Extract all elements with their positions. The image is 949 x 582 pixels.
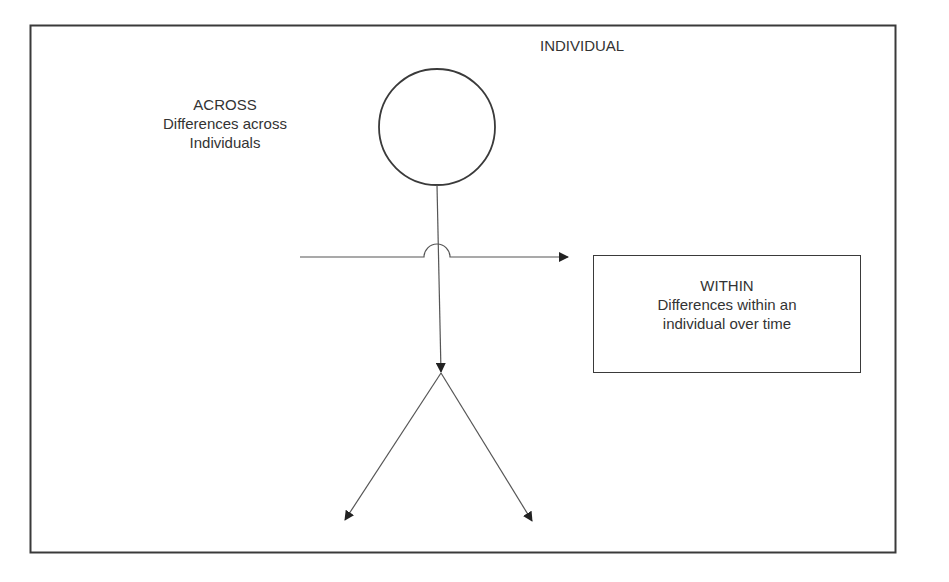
across-heading: ACROSS <box>140 95 310 114</box>
across-line-2: Individuals <box>140 133 310 152</box>
diagram-canvas: INDIVIDUAL ACROSS Differences across Ind… <box>0 0 949 582</box>
figure-head-icon <box>379 69 495 185</box>
figure-right-leg-arrow <box>441 373 532 521</box>
within-line-1: Differences within an <box>594 295 860 314</box>
across-line-1: Differences across <box>140 114 310 133</box>
within-label: WITHIN Differences within an individual … <box>594 276 860 333</box>
figure-left-leg-arrow <box>345 373 441 520</box>
within-box: WITHIN Differences within an individual … <box>593 255 861 373</box>
figure-body-arrow <box>437 185 441 372</box>
title-text: INDIVIDUAL <box>540 36 740 55</box>
diagram-title: INDIVIDUAL <box>540 36 740 55</box>
across-label: ACROSS Differences across Individuals <box>140 95 310 152</box>
within-heading: WITHIN <box>594 276 860 295</box>
figure-arms-arrow <box>300 244 568 257</box>
within-line-2: individual over time <box>594 314 860 333</box>
